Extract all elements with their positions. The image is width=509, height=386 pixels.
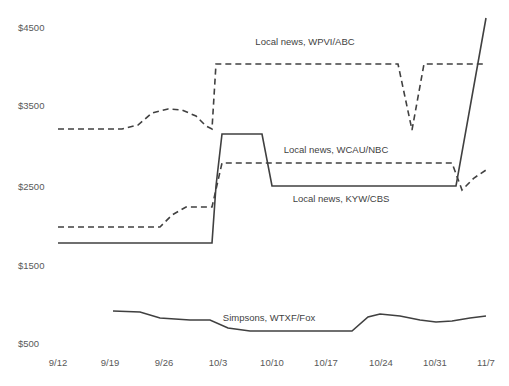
series-label-kyw-cbs: Local news, KYW/CBS xyxy=(293,193,390,204)
series-label-simpsons-wtxf-fox: Simpsons, WTXF/Fox xyxy=(223,312,316,323)
x-tick-label: 10/3 xyxy=(209,357,228,368)
y-tick-label: $3500 xyxy=(18,100,44,111)
series-label-wpvi-abc: Local news, WPVI/ABC xyxy=(255,36,354,47)
x-tick-label: 9/12 xyxy=(49,357,68,368)
series-path-kyw-cbs xyxy=(58,18,486,243)
series-path-wpvi-abc xyxy=(58,64,486,130)
x-tick-label: 9/19 xyxy=(101,357,120,368)
x-tick-label: 10/17 xyxy=(314,357,338,368)
line-chart: $4500 $3500 $2500 $1500 $500 9/12 9/19 9… xyxy=(0,0,509,386)
x-tick-label: 10/24 xyxy=(369,357,393,368)
x-tick-label: 9/26 xyxy=(155,357,174,368)
y-tick-label: $4500 xyxy=(18,22,44,33)
y-tick-label: $1500 xyxy=(18,260,44,271)
x-tick-label: 11/7 xyxy=(477,357,495,368)
series-label-wcau-nbc: Local news, WCAU/NBC xyxy=(284,144,389,155)
x-axis-tick-labels: 9/12 9/19 9/26 10/3 10/10 10/17 10/24 10… xyxy=(49,357,495,368)
chart-canvas: $4500 $3500 $2500 $1500 $500 9/12 9/19 9… xyxy=(0,0,509,386)
series-path-wcau-nbc xyxy=(58,163,486,227)
series-paths xyxy=(58,18,486,331)
series-annotations: Local news, WPVI/ABC Local news, WCAU/NB… xyxy=(223,36,390,323)
x-tick-label: 10/10 xyxy=(260,357,284,368)
y-tick-label: $2500 xyxy=(18,181,44,192)
y-axis-tick-labels: $4500 $3500 $2500 $1500 $500 xyxy=(18,22,44,349)
x-tick-label: 10/31 xyxy=(423,357,447,368)
y-tick-label: $500 xyxy=(18,338,39,349)
